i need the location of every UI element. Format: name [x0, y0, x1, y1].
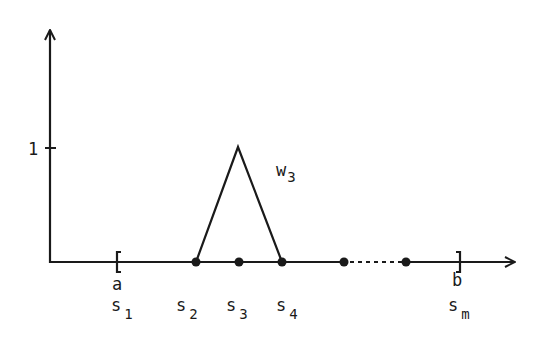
node-label-s1: s1: [111, 295, 133, 322]
node-label-s2: s2: [176, 295, 198, 322]
node-s2: [192, 258, 201, 267]
node-s-m-minus-1: [402, 258, 411, 267]
node-label-sm: sm: [448, 295, 470, 322]
node-label-s3: s3: [226, 295, 248, 322]
node-s3: [235, 258, 244, 267]
node-label-s4: s4: [276, 295, 298, 322]
hat-function-w3: [196, 147, 282, 262]
hat-function-label: w3: [276, 160, 296, 185]
interval-right-label-b: b: [452, 270, 462, 290]
node-s5: [340, 258, 349, 267]
hat-function-diagram: 1 w3 a b s1 s2 s3 s4 sm: [0, 0, 549, 346]
node-s4: [278, 258, 287, 267]
y-tick-label: 1: [28, 139, 38, 159]
interval-left-label-a: a: [112, 274, 122, 294]
